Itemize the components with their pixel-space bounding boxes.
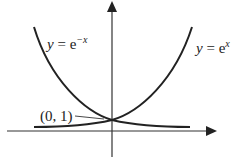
y-axis-arrow-icon bbox=[107, 1, 117, 12]
intersection-label: (0, 1) bbox=[40, 108, 73, 125]
intersection-leader bbox=[75, 116, 104, 119]
graph-canvas: y = e−x y = ex (0, 1) bbox=[0, 0, 235, 161]
label-exp-x: y = ex bbox=[194, 38, 230, 56]
label-exp-neg-x: y = e−x bbox=[45, 34, 88, 52]
x-axis-arrow-icon bbox=[206, 126, 217, 136]
exponential-graph: y = e−x y = ex (0, 1) bbox=[0, 0, 235, 161]
